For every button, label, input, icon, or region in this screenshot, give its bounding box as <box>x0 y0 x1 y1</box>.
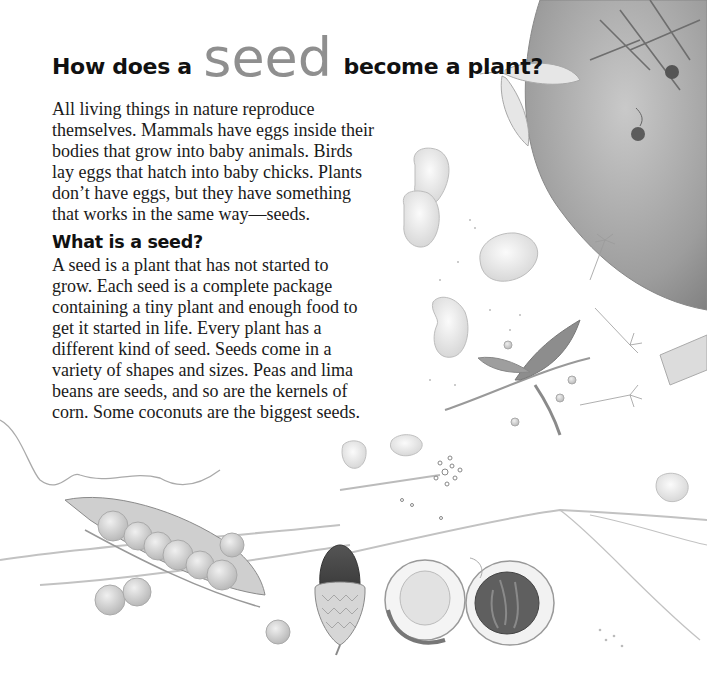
intro-line: themselves. Mammals have eggs inside the… <box>52 120 412 141</box>
intro-line: All living things in nature reproduce <box>52 99 412 120</box>
section-paragraph: A seed is a plant that has not started t… <box>52 255 412 423</box>
section-line: get it started in life. Every plant has … <box>52 318 412 339</box>
title-after: become a plant? <box>343 54 542 79</box>
section-line: A seed is a plant that has not started t… <box>52 255 412 276</box>
intro-line: lay eggs that hatch into baby chicks. Pl… <box>52 162 412 183</box>
section-line: containing a tiny plant and enough food … <box>52 297 412 318</box>
title-emphasis-word: seed <box>203 26 332 89</box>
book-page: How does a seed become a plant? All livi… <box>0 0 707 685</box>
small-seeds-drawing <box>342 435 688 502</box>
stick-drawing <box>660 335 707 385</box>
intro-paragraph: All living things in nature reproduce th… <box>52 99 412 225</box>
intro-line: bodies that grow into baby animals. Bird… <box>52 141 412 162</box>
lima-beans-drawing <box>403 148 537 357</box>
intro-line: don’t have eggs, but they have something <box>52 183 412 204</box>
acorn-drawing <box>315 545 365 655</box>
section-line: grow. Each seed is a complete package <box>52 276 412 297</box>
section-line: corn. Some coconuts are the biggest seed… <box>52 402 412 423</box>
intro-line: that works in the same way—seeds. <box>52 204 412 225</box>
section-line: different kind of seed. Seeds come in a <box>52 339 412 360</box>
section-line: beans are seeds, and so are the kernels … <box>52 381 412 402</box>
title-before: How does a <box>52 54 192 79</box>
section-line: variety of shapes and sizes. Peas and li… <box>52 360 412 381</box>
section-heading: What is a seed? <box>52 232 203 252</box>
page-title: How does a seed become a plant? <box>52 26 543 89</box>
pea-tendril-drawing <box>0 420 220 485</box>
coconut-shell-drawing <box>525 0 707 310</box>
coconut-halves-drawing <box>385 558 554 645</box>
